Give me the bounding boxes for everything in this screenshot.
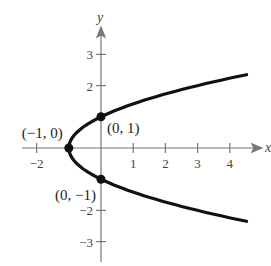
x-tick-label: −2 [30,156,44,171]
x-axis-arrow-icon [252,144,262,152]
y-axis-arrow-icon [97,27,105,37]
y-axis-label: y [95,10,104,25]
y-tick-label: −3 [79,235,93,250]
y-tick-label: 3 [87,47,94,62]
y-tick-label: −2 [79,203,93,218]
x-tick-label: 2 [162,156,169,171]
point-marker [97,112,106,121]
parabola-graph: −2123432−2−3 (−1, 0)(0, 1)(0, −1) x y [0,0,271,266]
point-marker [64,144,73,153]
point-marker [97,175,106,184]
x-axis-label: x [264,140,271,155]
point-label: (0, 1) [107,120,140,137]
point-label: (0, −1) [55,187,96,204]
x-tick-label: 3 [194,156,201,171]
x-tick-label: 4 [227,156,234,171]
y-tick-label: 2 [87,79,94,94]
x-tick-label: 1 [130,156,137,171]
point-label: (−1, 0) [22,125,63,142]
